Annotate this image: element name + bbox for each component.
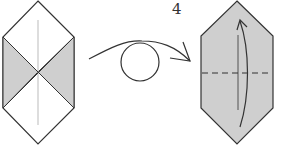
- origami-diagram: [0, 0, 294, 151]
- turn-over-symbol: [89, 41, 190, 81]
- before-shape: [3, 1, 74, 144]
- step-number: 4: [172, 0, 182, 18]
- after-shape: [201, 1, 273, 144]
- turn-over-circle: [121, 43, 159, 81]
- turn-over-arc-arrow: [89, 41, 190, 61]
